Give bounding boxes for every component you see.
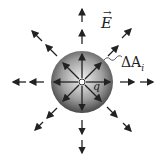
- charge-symbol: q: [93, 80, 100, 93]
- area-element-pointer: [104, 56, 122, 61]
- point-charge: [79, 79, 85, 85]
- area-element-label: ΔAi: [121, 54, 144, 73]
- gauss-diagram: [0, 0, 160, 163]
- charge-label: q: [93, 80, 100, 93]
- area-subscript: i: [141, 63, 144, 73]
- area-symbol: ΔA: [121, 54, 141, 70]
- field-label: → E: [101, 14, 112, 32]
